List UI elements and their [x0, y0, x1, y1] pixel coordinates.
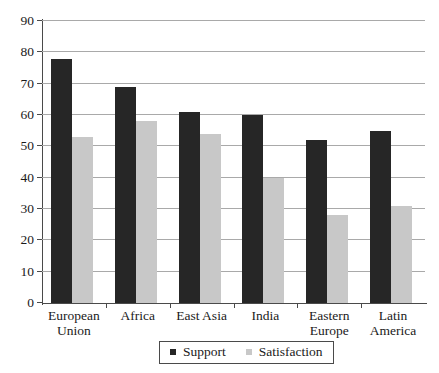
bar-group: [306, 21, 348, 303]
y-axis-tickmark: [37, 239, 42, 240]
x-axis-line: [42, 303, 427, 304]
bar-group: [370, 21, 412, 303]
legend-label: Support: [183, 345, 226, 359]
y-axis-tick-label: 50: [21, 140, 35, 154]
y-axis-tick-label: 60: [21, 108, 35, 122]
bar-satisfaction-latin-america: [391, 206, 412, 303]
x-axis-tick-label-line: East Asia: [170, 308, 234, 323]
gridline: [42, 145, 425, 146]
bar-support-india: [242, 115, 263, 303]
legend-entry-satisfaction: Satisfaction: [246, 345, 323, 359]
gridline: [42, 20, 425, 21]
x-axis-tick-label: LatinAmerica: [361, 308, 425, 338]
legend-entry-support: Support: [170, 345, 226, 359]
bar-satisfaction-east-asia: [200, 134, 221, 303]
y-axis-tickmark: [37, 302, 42, 303]
bar-support-european-union: [51, 59, 72, 303]
bar-group: [242, 21, 284, 303]
x-axis-separator-tick: [361, 304, 362, 308]
y-axis-tickmark: [37, 177, 42, 178]
y-axis-tick-label: 70: [21, 77, 35, 91]
gridline: [42, 271, 425, 272]
x-axis-tick-label-line: Union: [42, 323, 106, 338]
x-axis-separator-tick: [106, 304, 107, 308]
y-axis-tick-label: 0: [27, 296, 34, 310]
y-axis-tickmark: [37, 208, 42, 209]
x-axis-tick-label: Africa: [106, 308, 170, 323]
chart-legend: SupportSatisfaction: [159, 341, 334, 364]
x-axis-tick-label: EasternEurope: [297, 308, 361, 338]
x-axis-tick-label-line: Latin: [361, 308, 425, 323]
gridline: [42, 177, 425, 178]
bar-satisfaction-india: [263, 178, 284, 303]
y-axis-tickmark: [37, 145, 42, 146]
y-axis-tickmark: [37, 20, 42, 21]
x-axis-tick-label: India: [234, 308, 298, 323]
legend-swatch-icon: [246, 349, 252, 355]
bar-chart-figure: 0102030405060708090 EuropeanUnionAfricaE…: [0, 0, 439, 373]
y-axis-tickmark: [37, 114, 42, 115]
bar-support-latin-america: [370, 131, 391, 303]
x-axis-separator-tick: [170, 304, 171, 308]
y-axis-tick-label: 30: [21, 202, 35, 216]
y-axis-tick-label: 90: [21, 14, 35, 28]
x-axis-separator-tick: [297, 304, 298, 308]
gridline: [42, 114, 425, 115]
bar-group: [51, 21, 93, 303]
x-axis-tick-label-line: India: [234, 308, 298, 323]
bar-satisfaction-european-union: [72, 137, 93, 303]
x-axis-tick-label-line: Europe: [297, 323, 361, 338]
legend-label: Satisfaction: [259, 345, 323, 359]
y-axis-tickmark: [37, 83, 42, 84]
x-axis-tick-label: East Asia: [170, 308, 234, 323]
x-axis-tick-label-line: European: [42, 308, 106, 323]
y-axis-tickmark: [37, 271, 42, 272]
plot-area: 0102030405060708090: [42, 21, 425, 303]
bar-satisfaction-africa: [136, 121, 157, 303]
y-axis-tick-label: 20: [21, 234, 35, 248]
bar-support-eastern-europe: [306, 140, 327, 303]
bar-group: [115, 21, 157, 303]
bar-satisfaction-eastern-europe: [327, 215, 348, 303]
bar-group: [179, 21, 221, 303]
bar-support-africa: [115, 87, 136, 303]
legend-swatch-icon: [170, 349, 176, 355]
gridline: [42, 83, 425, 84]
y-axis-tick-label: 10: [21, 265, 35, 279]
gridline: [42, 208, 425, 209]
x-axis-separator-tick: [234, 304, 235, 308]
y-axis-tickmark: [37, 51, 42, 52]
y-axis-tick-label: 80: [21, 46, 35, 60]
gridline: [42, 239, 425, 240]
x-axis-tick-label: EuropeanUnion: [42, 308, 106, 338]
x-axis-tick-label-line: Eastern: [297, 308, 361, 323]
bar-support-east-asia: [179, 112, 200, 303]
x-axis-tick-label-line: Africa: [106, 308, 170, 323]
x-axis-tick-label-line: America: [361, 323, 425, 338]
gridline: [42, 51, 425, 52]
y-axis-tick-label: 40: [21, 171, 35, 185]
